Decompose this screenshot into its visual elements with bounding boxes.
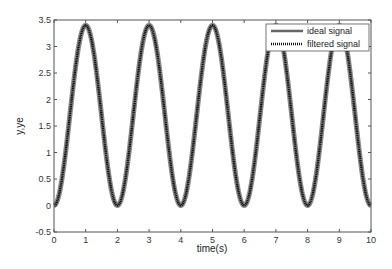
y-tick-label: 0.5: [38, 174, 51, 184]
y-tick-label: 3: [46, 42, 51, 52]
legend-filtered-label: filtered signal: [307, 39, 360, 49]
x-tick-label: 7: [273, 235, 278, 245]
x-tick-label: 1: [83, 235, 88, 245]
y-tick-label: 1.5: [38, 121, 51, 131]
y-tick-label: 2.5: [38, 68, 51, 78]
y-tick-label: -0.5: [35, 227, 51, 237]
y-tick-label: 0: [46, 201, 51, 211]
y-tick-label: 2: [46, 95, 51, 105]
signal-chart: -0.500.511.522.533.5 012345678910 ideal …: [0, 0, 392, 269]
y-tick-labels: -0.500.511.522.533.5: [35, 15, 51, 237]
x-tick-label: 6: [242, 235, 247, 245]
y-tick-label: 3.5: [38, 15, 51, 25]
y-axis-label: y,ye: [14, 117, 25, 135]
x-axis-label: time(s): [197, 243, 228, 254]
x-tick-label: 2: [115, 235, 120, 245]
x-tick-label: 8: [305, 235, 310, 245]
x-tick-label: 3: [147, 235, 152, 245]
x-tick-label: 0: [51, 235, 56, 245]
x-tick-label: 10: [366, 235, 376, 245]
x-tick-label: 4: [178, 235, 183, 245]
x-tick-label: 9: [337, 235, 342, 245]
y-tick-label: 1: [46, 148, 51, 158]
legend-ideal-label: ideal signal: [307, 26, 352, 36]
legend: ideal signal filtered signal: [266, 24, 369, 51]
